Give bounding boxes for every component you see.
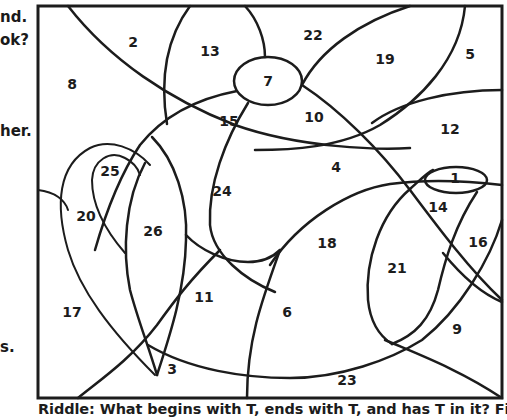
region-number-24: 24 [212, 183, 232, 199]
region-number-9: 9 [452, 321, 462, 337]
region-number-12: 12 [440, 121, 459, 137]
region-number-21: 21 [387, 260, 406, 276]
region-number-10: 10 [304, 109, 324, 125]
region-number-23: 23 [337, 372, 356, 388]
region-number-3: 3 [167, 361, 177, 377]
region-number-6: 6 [282, 304, 292, 320]
region-number-17: 17 [62, 304, 81, 320]
region-number-2: 2 [128, 34, 138, 50]
region-number-15: 15 [219, 113, 238, 129]
region-number-1: 1 [450, 170, 460, 186]
region-number-11: 11 [194, 289, 213, 305]
region-number-16: 16 [468, 234, 487, 250]
region-number-18: 18 [317, 235, 336, 251]
hidden-picture-puzzle: 1 2 3 4 5 6 7 8 9 10 11 12 13 14 15 16 1… [0, 0, 507, 420]
region-number-5: 5 [465, 46, 475, 62]
region-number-4: 4 [331, 159, 341, 175]
region-number-7: 7 [263, 73, 273, 89]
region-number-8: 8 [67, 76, 77, 92]
region-number-22: 22 [303, 27, 322, 43]
riddle-text: Riddle: What begins with T, ends with T,… [38, 401, 507, 417]
region-number-26: 26 [143, 223, 162, 239]
region-number-20: 20 [76, 208, 96, 224]
region-number-14: 14 [428, 199, 448, 215]
region-number-25: 25 [100, 163, 119, 179]
region-number-19: 19 [375, 51, 394, 67]
region-number-13: 13 [200, 43, 219, 59]
